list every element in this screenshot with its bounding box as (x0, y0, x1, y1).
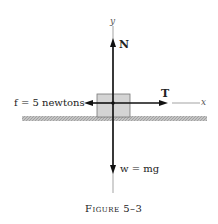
tension-label: T (161, 88, 169, 99)
x-axis-label: x (201, 98, 206, 107)
free-body-diagram (0, 0, 218, 224)
normal-force-label: N (119, 39, 129, 50)
tension-arrowhead-icon (159, 100, 168, 106)
origin-point (111, 101, 115, 105)
y-axis-label: y (110, 17, 115, 26)
normal-arrowhead-icon (110, 38, 116, 47)
friction-arrowhead-icon (84, 100, 93, 106)
friction-label: f = 5 newtons (14, 98, 85, 108)
weight-label: w = mg (120, 164, 159, 174)
figure-caption: Figure 5–3 (85, 203, 142, 214)
weight-arrowhead-icon (110, 165, 116, 174)
